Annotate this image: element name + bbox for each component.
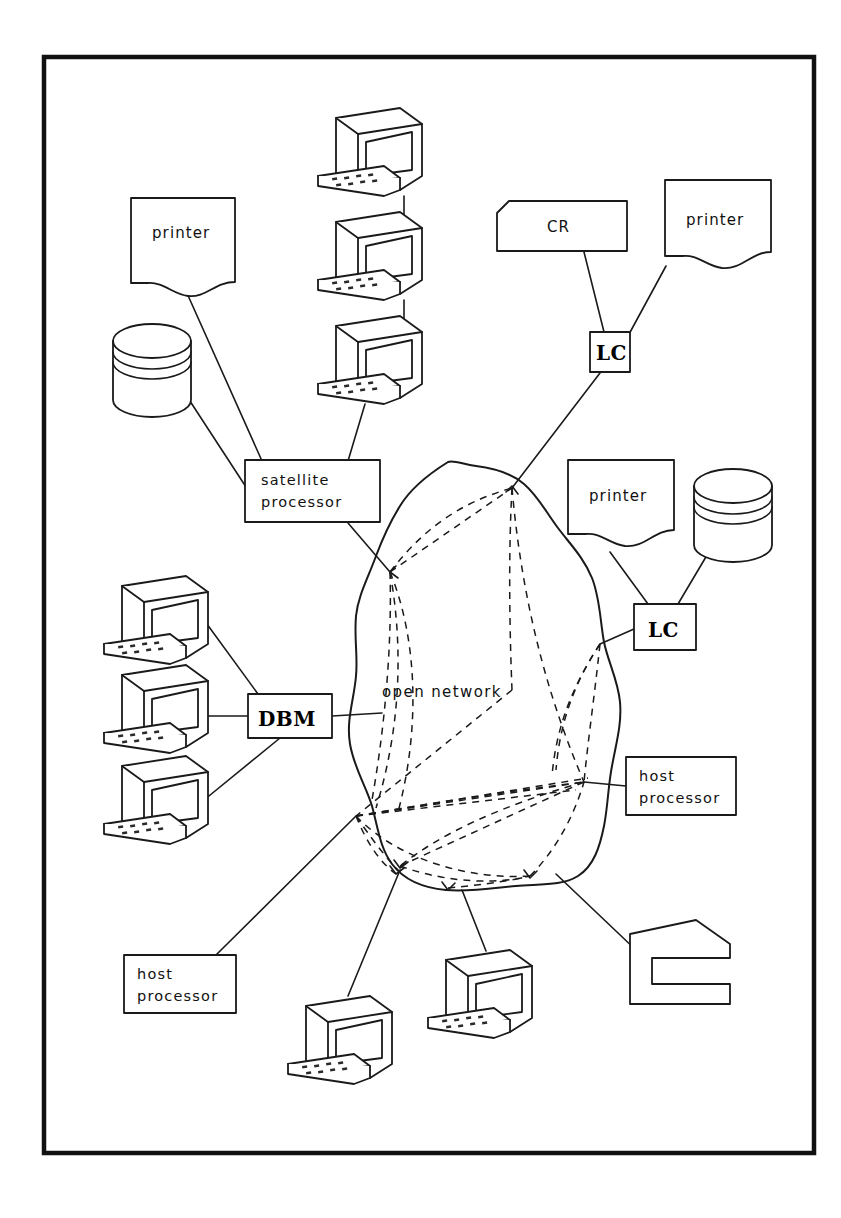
printer-top-left-label: printer [152,224,210,242]
edge-cr-lc-top [584,252,604,332]
terminal-stack-2[interactable] [318,212,422,300]
terminal-stack-1[interactable] [318,108,422,196]
terminal-icon [104,576,208,664]
printer-top-right[interactable]: printer [665,180,771,268]
edge-terminal3-satellite [348,404,365,461]
edge-network-terminal-bottom1 [348,870,400,996]
disk-top-left[interactable] [113,324,191,417]
card-reader-label: CR [547,218,570,236]
edge-printer-lc-top [628,266,666,336]
terminal-icon [318,108,422,196]
line-controller-mid-label: LC [648,618,679,642]
disk-icon [113,324,191,417]
open-network-label: open network [382,683,502,701]
line-controller-mid[interactable]: LC [634,604,696,650]
terminal-icon [104,756,208,844]
line-controller-top[interactable]: LC [590,332,630,372]
terminal-stack-3[interactable] [318,316,422,404]
card-reader-node[interactable]: CR [497,201,627,251]
printer-mid-right[interactable]: printer [568,460,674,546]
edge-printer-satellite [186,291,262,461]
printer-top-right-label: printer [686,211,744,229]
terminal-icon [318,212,422,300]
terminal-left-3[interactable] [104,756,208,844]
edge-lc-mid-network [600,629,634,644]
terminal-icon [288,996,392,1084]
host-processor-bottom-label-line1: host [137,966,173,982]
terminal-bottom-1[interactable] [288,996,392,1084]
host-processor-right-label-line1: host [639,768,675,784]
line-controller-top-label: LC [596,341,627,365]
terminal-icon [104,665,208,753]
host-processor-box [626,757,736,815]
edge-printer-lc-mid [610,552,648,604]
satellite-processor-label-line1: satellite [261,472,330,488]
host-processor-box [124,955,236,1013]
console-symbol-node[interactable] [630,920,730,1004]
terminal-icon [318,316,422,404]
satellite-processor-label-line2: processor [261,494,342,510]
terminal-left-1[interactable] [104,576,208,664]
console-c-shape-icon [630,920,730,1004]
printer-icon [131,198,235,296]
printer-top-left[interactable]: printer [131,198,235,296]
database-machine-label: DBM [258,707,316,731]
database-machine-node[interactable]: DBM [248,694,332,738]
host-processor-right-label-line2: processor [639,790,720,806]
network-diagram: open network [0,0,841,1218]
satellite-processor-box [245,460,380,522]
edge-network-host-bottom [216,816,356,955]
disk-mid-right[interactable] [694,469,772,562]
host-processor-right[interactable]: host processor [626,757,736,815]
edge-terminal-left1-dbm [204,620,258,694]
satellite-processor-node[interactable]: satellite processor [245,460,380,522]
terminal-left-2[interactable] [104,665,208,753]
disk-icon [694,469,772,562]
edge-network-console [556,874,638,952]
host-processor-bottom-label-line2: processor [137,988,218,1004]
printer-mid-right-label: printer [589,487,647,505]
terminal-bottom-2[interactable] [428,950,532,1038]
host-processor-bottom[interactable]: host processor [124,955,236,1013]
edge-terminal-left3-dbm [204,738,280,800]
edge-disk-satellite [186,395,246,487]
terminal-icon [428,950,532,1038]
edge-network-terminal-bottom2 [462,890,486,951]
